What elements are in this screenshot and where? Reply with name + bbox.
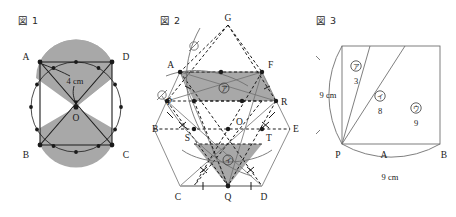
figure-3-drawing: ア 3 イ 8 ウ 9 P A B 9 cm 9 cm [304, 0, 456, 217]
worksheet-page: 図 1 [0, 0, 456, 217]
figure-3-dim-bottom: 9 cm [382, 172, 399, 182]
figure-2-label-F: F [268, 60, 273, 70]
figure-1-label-D: D [123, 52, 130, 62]
figure-2-label-B: B [152, 124, 158, 134]
figure-2-label-P: P [167, 97, 172, 107]
figure-3-region-i-mark: イ [377, 93, 384, 101]
figure-2-label-D: D [261, 192, 268, 202]
figure-1-drawing: A D B C O 4 cm [0, 0, 152, 217]
figure-3-region-u-mark: ウ [413, 105, 420, 113]
figure-3-region-a-value: 3 [354, 76, 358, 86]
figure-3: 図 3 ア 3 [304, 0, 456, 217]
figure-2-region-a-text: ア [221, 85, 228, 93]
figure-2-label-T: T [266, 133, 272, 143]
figure-1-label-A: A [23, 52, 30, 62]
figure-2-arc-marker-2 [157, 90, 167, 100]
figure-3-region-u: ウ 9 [411, 103, 421, 128]
figure-3-region-u-value: 9 [414, 118, 418, 128]
figure-2-label-O: O [236, 117, 243, 127]
figure-3-division-lines [342, 46, 405, 144]
figure-2-label-G: G [225, 13, 232, 23]
figure-2-drawing: ア イ G A F P R B O E S T C Q D [152, 0, 304, 217]
figure-3-arcs [329, 46, 440, 157]
figure-3-label-B: B [441, 150, 447, 160]
figure-3-region-i: イ 8 [375, 91, 385, 116]
figure-1: 図 1 [0, 0, 152, 217]
figure-1-label-C: C [123, 150, 129, 160]
figure-3-label-A: A [381, 150, 388, 160]
figure-3-region-a-mark: ア [353, 63, 360, 71]
figure-2-label-S: S [185, 133, 190, 143]
figure-3-label-P: P [335, 150, 340, 160]
figure-2-label-A: A [167, 60, 174, 70]
figure-2-label-E: E [293, 124, 299, 134]
figure-3-region-i-value: 8 [378, 106, 382, 116]
figure-2: 図 2 [152, 0, 304, 217]
figure-3-dim-left: 9 cm [320, 90, 337, 100]
figure-2-label-Q: Q [225, 192, 232, 202]
figure-1-label-O: O [73, 113, 80, 123]
figure-1-shaded-region [36, 39, 112, 167]
figure-2-arc-marker-1 [189, 41, 199, 51]
figure-1-radius-label: 4 cm [67, 76, 84, 86]
figure-2-label-C: C [175, 192, 181, 202]
figure-1-label-B: B [23, 150, 29, 160]
figure-2-label-R: R [281, 97, 288, 107]
figure-2-region-i-text: イ [225, 157, 232, 165]
